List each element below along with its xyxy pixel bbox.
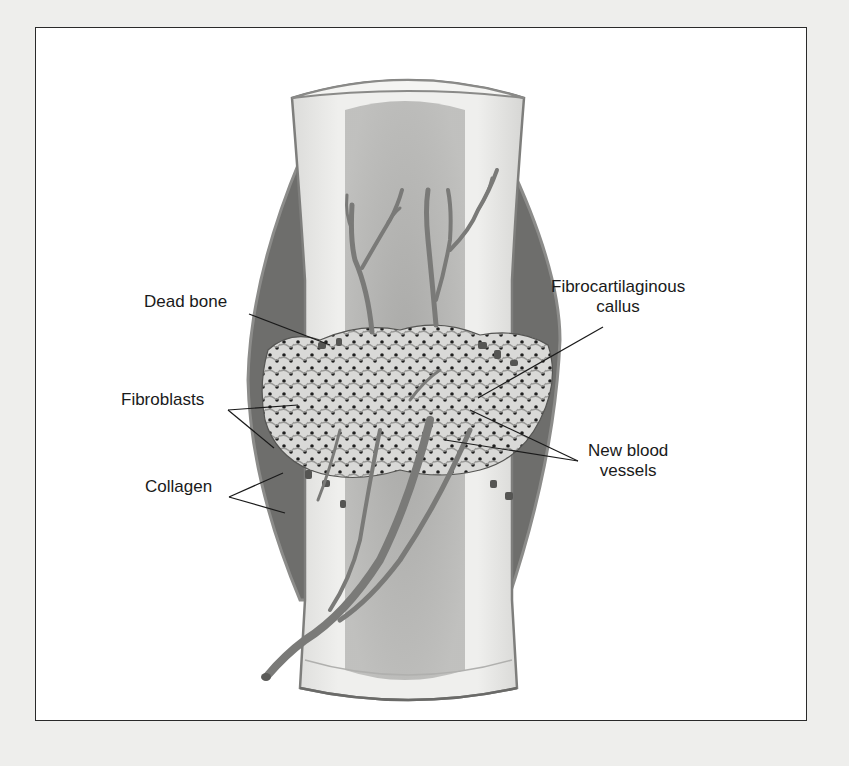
label-dead-bone: Dead bone [144,292,227,312]
label-collagen: Collagen [145,477,212,497]
label-fibroblasts: Fibroblasts [121,390,204,410]
label-new-blood-vessels: New blood vessels [588,441,668,481]
label-new-blood-vessels-line2: vessels [588,461,668,481]
label-fibrocartilaginous-callus: Fibrocartilaginous callus [551,277,685,317]
label-new-blood-vessels-line1: New blood [588,441,668,461]
bone-healing-illustration [0,0,849,766]
vessel-end [261,673,271,681]
label-fibrocartilaginous-callus-line2: callus [551,297,685,317]
label-fibrocartilaginous-callus-line1: Fibrocartilaginous [551,277,685,297]
